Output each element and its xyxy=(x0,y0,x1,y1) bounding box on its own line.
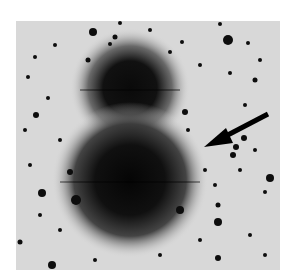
star-field-photo xyxy=(16,21,280,270)
lower-halo xyxy=(52,102,208,258)
star-field-graphic xyxy=(16,21,280,270)
arrow-icon xyxy=(204,114,268,147)
